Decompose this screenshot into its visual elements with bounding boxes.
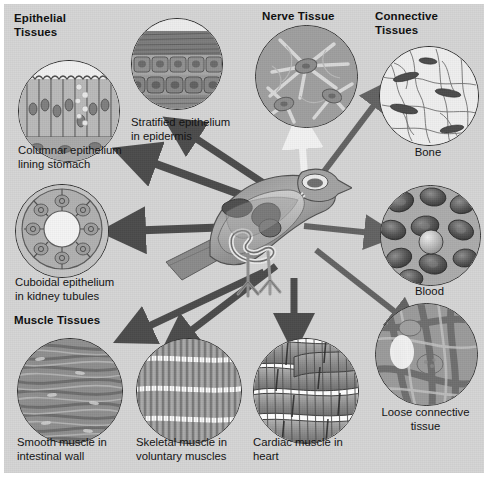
micrograph-nerve-tissue [255, 25, 358, 128]
caption-blood: Blood [380, 285, 479, 299]
caption-smooth-muscle: Smooth muscle in intestinal wall [17, 436, 132, 463]
heading-connective-tissues: Connective Tissues [375, 10, 438, 37]
micrograph-cardiac-muscle [253, 338, 359, 444]
heading-epithelial-tissues: Epithelial Tissues [14, 12, 66, 39]
micrograph-bone [379, 46, 479, 146]
caption-loose-connective-tissue: Loose connective tissue [370, 406, 481, 433]
caption-stratified-epithelium: Stratified epithelium in epidermis [131, 116, 256, 143]
micrograph-stratified-epithelium [131, 18, 223, 110]
caption-cardiac-muscle: Cardiac muscle in heart [253, 436, 363, 463]
heading-nerve-tissue: Nerve Tissue [262, 10, 335, 24]
micrograph-loose-connective-tissue [375, 303, 478, 406]
caption-bone: Bone [379, 146, 477, 160]
tissue-diagram-figure: Epithelial Tissues Nerve Tissue Connecti… [0, 0, 488, 477]
micrograph-smooth-muscle [17, 338, 123, 444]
caption-columnar-epithelium: Columnar epithelium lining stomach [18, 144, 138, 171]
heading-muscle-tissues: Muscle Tissues [14, 314, 100, 328]
caption-skeletal-muscle: Skeletal muscle in voluntary muscles [136, 436, 254, 463]
micrograph-skeletal-muscle [136, 338, 242, 444]
micrograph-blood [380, 185, 481, 286]
micrograph-cuboidal-epithelium [15, 184, 109, 278]
caption-cuboidal-epithelium: Cuboidal epithelium in kidney tubules [15, 276, 140, 303]
bird-anatomy-illustration [152, 142, 352, 322]
diagram-panel: Epithelial Tissues Nerve Tissue Connecti… [4, 4, 484, 473]
